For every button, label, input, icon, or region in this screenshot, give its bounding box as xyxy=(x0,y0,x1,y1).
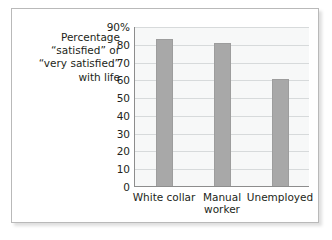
y-axis-tick-label: 0 xyxy=(123,182,130,193)
gridline xyxy=(135,27,309,28)
x-axis-tick-label: Manual worker xyxy=(203,192,241,215)
x-axis-line xyxy=(135,186,309,187)
y-axis-tick-label: 80 xyxy=(117,40,130,51)
y-axis-tick-label: 30 xyxy=(117,128,130,139)
plot-area: 90%80706050403020100 White collarManual … xyxy=(134,27,309,187)
y-axis-tick-label: 70 xyxy=(117,57,130,68)
bar xyxy=(214,43,231,187)
y-axis-tick-label: 20 xyxy=(117,146,130,157)
x-axis-tick-label: Unemployed xyxy=(247,192,313,204)
y-axis-tick-label: 90% xyxy=(107,22,130,33)
y-axis-tick-label: 50 xyxy=(117,93,130,104)
bar xyxy=(272,79,289,187)
plot-wrap: 90%80706050403020100 White collarManual … xyxy=(134,27,309,187)
y-axis-caption: Percentage “satisfied” or “very satisfie… xyxy=(16,31,120,84)
y-axis-tick-label: 40 xyxy=(117,111,130,122)
bar xyxy=(156,39,173,187)
y-axis-tick-label: 10 xyxy=(117,164,130,175)
x-axis-tick-label: White collar xyxy=(133,192,196,204)
y-axis-tick-label: 60 xyxy=(117,75,130,86)
figure-card: Percentage “satisfied” or “very satisfie… xyxy=(11,8,319,223)
